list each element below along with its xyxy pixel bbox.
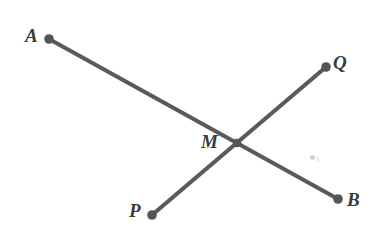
segment-ab [49,39,338,199]
point-dot-q [321,62,331,72]
point-label-a: A [25,26,38,45]
point-dot-b [333,194,343,204]
figure-canvas [0,0,381,235]
point-label-m: M [201,132,218,151]
point-dot-m [233,139,241,147]
artifact-speck-tail [316,157,319,162]
scan-artifact [311,156,319,163]
point-dot-a [44,34,54,44]
point-label-q: Q [333,53,347,72]
point-label-p: P [129,201,141,220]
point-label-b: B [347,190,360,209]
point-dot-p [147,210,157,220]
artifact-speck-rect [311,156,315,160]
geometry-diagram: A B P Q M [0,0,381,235]
